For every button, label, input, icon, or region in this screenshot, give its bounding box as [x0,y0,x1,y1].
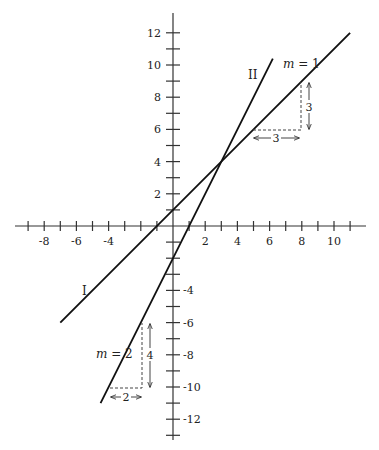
y-tick-label: -10 [183,381,201,394]
x-tick-label: -8 [39,235,50,248]
y-tick-label: -12 [183,413,201,426]
y-tick-label: 2 [154,188,161,201]
x-tick-labels: -8-6-4246810 [39,235,341,248]
axes [15,13,366,440]
x-tick-label: 2 [202,235,209,248]
run-label-II: 2 [123,391,130,404]
y-tick-label: 8 [154,91,161,104]
y-tick-label: 12 [147,27,161,40]
y-tick-label: 6 [154,123,161,136]
x-tick-label: 6 [266,235,273,248]
y-tick-label: 10 [147,59,161,72]
x-tick-label: 10 [327,235,341,248]
slope-triangle-line-I [253,82,309,138]
line-I [60,33,350,323]
x-tick-label: 8 [298,235,305,248]
y-tick-label: -4 [183,284,194,297]
slope-label-II: m = 2 [96,347,133,361]
y-tick-label: -6 [183,317,194,330]
line-I-label: I [82,284,87,298]
slope-label-I: m = 1 [283,57,320,71]
y-tick-label: -8 [183,349,194,362]
coordinate-plot: -8-6-4246810 12108642-4-6-8-10-12 3 3 2 … [0,0,379,450]
run-label-I: 3 [273,132,280,145]
rise-label-I: 3 [306,101,313,114]
x-tick-label: 4 [234,235,241,248]
y-tick-label: 4 [154,156,161,169]
x-tick-label: -6 [71,235,82,248]
rise-label-II: 4 [147,349,154,362]
line-II-label: II [248,68,258,82]
x-tick-label: -4 [103,235,114,248]
